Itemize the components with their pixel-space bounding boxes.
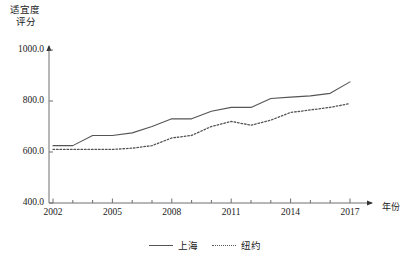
series-line-shanghai [53,82,350,146]
plot-area [0,0,410,259]
legend-label-shanghai: 上海 [178,238,198,252]
data-series-group [53,82,350,150]
legend-item-shanghai: 上海 [149,238,198,252]
x-axis-arrow-icon [367,200,373,205]
axes-group [46,45,373,206]
chart-figure: 适宜度 评分 年份 1000.0800.0600.0400.0 20022005… [0,0,410,259]
chart-legend: 上海 纽约 [0,236,410,254]
legend-label-newyork: 纽约 [241,238,261,252]
legend-swatch-solid-line [149,245,173,246]
legend-item-newyork: 纽约 [212,238,261,252]
axis-tick-marks [49,50,350,203]
legend-swatch-dotted-line [212,245,236,246]
series-line-newyork [53,104,350,150]
